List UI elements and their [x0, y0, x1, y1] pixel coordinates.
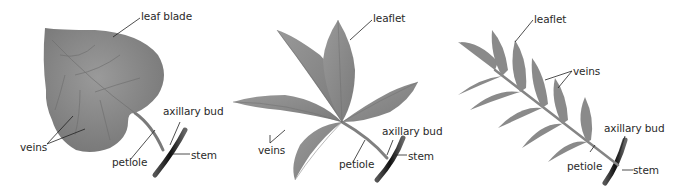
label-axillary-bud: axillary bud [163, 105, 224, 117]
leader-leaf-blade [113, 18, 140, 37]
leaflets [458, 30, 592, 162]
palmate-leaf-diagram: leaflet veins petiole axillary bud stem [225, 0, 455, 194]
label-veins: veins [20, 141, 47, 153]
leaf-blade-shape [44, 28, 164, 152]
label-petiole: petiole [339, 158, 374, 170]
label-leaf-blade: leaf blade [141, 10, 192, 22]
label-veins: veins [258, 144, 285, 156]
petiole-shape [135, 113, 163, 150]
label-petiole: petiole [567, 160, 602, 172]
label-veins: veins [573, 65, 600, 77]
label-petiole: petiole [112, 156, 147, 168]
label-leaflet: leaflet [373, 12, 405, 24]
label-axillary-bud: axillary bud [604, 122, 665, 134]
label-axillary-bud: axillary bud [382, 125, 443, 137]
label-stem: stem [633, 164, 659, 176]
pinnate-leaf-diagram: leaflet veins petiole axillary bud stem [450, 0, 680, 194]
stem-shape [155, 130, 185, 175]
leaflets [233, 20, 418, 180]
label-stem: stem [191, 149, 217, 161]
simple-leaf-diagram: leaf blade veins petiole axillary bud st… [0, 0, 230, 194]
label-leaflet: leaflet [534, 13, 566, 25]
label-stem: stem [408, 150, 434, 162]
